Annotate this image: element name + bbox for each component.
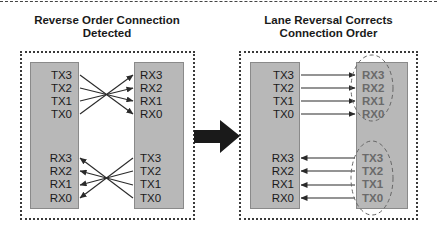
highlight-ellipse-top bbox=[351, 55, 393, 121]
left-top-crossed-lanes bbox=[80, 75, 133, 114]
left-bottom-crossed-lanes bbox=[80, 158, 133, 198]
connection-lines bbox=[0, 0, 437, 233]
right-bottom-straight-lanes bbox=[301, 158, 355, 198]
right-top-straight-lanes bbox=[301, 75, 355, 114]
highlight-ellipse-bottom bbox=[351, 141, 393, 215]
right-arrow-icon bbox=[194, 120, 240, 153]
lane-reversal-diagram: Reverse Order Connection Detected TX3 TX… bbox=[0, 0, 437, 233]
